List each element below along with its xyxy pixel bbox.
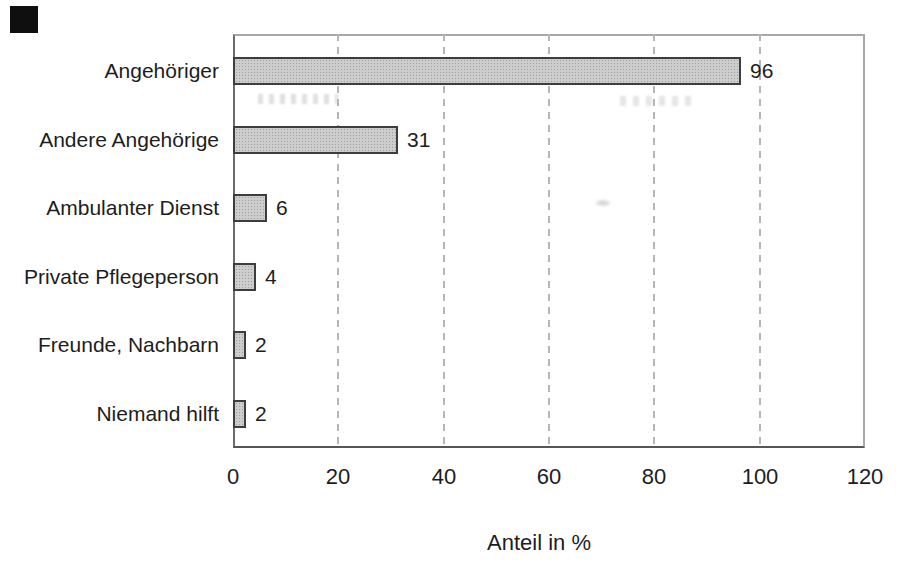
bar-value-label: 4 (265, 263, 277, 291)
bar-value-label: 31 (407, 126, 430, 154)
x-tick-label: 0 (188, 463, 278, 491)
category-label: Freunde, Nachbarn (0, 330, 226, 360)
scan-artifact-black-square (10, 6, 38, 33)
category-label: Ambulanter Dienst (0, 193, 226, 223)
bar-value-label: 2 (255, 331, 267, 359)
x-tick-label: 40 (399, 463, 489, 491)
x-tick-label: 100 (715, 463, 805, 491)
bar-ambulanter-dienst (233, 194, 267, 222)
x-tick-label: 120 (820, 463, 909, 491)
bar-freunde-nachbarn (233, 331, 246, 359)
x-tick-label: 80 (609, 463, 699, 491)
bar-value-label: 96 (750, 57, 773, 85)
gridline-80 (653, 34, 655, 448)
bar-niemand-hilft (233, 400, 246, 428)
gridline-40 (443, 34, 445, 448)
x-axis-title: Anteil in % (223, 529, 855, 557)
gridline-20 (337, 34, 339, 448)
bar-private-pflegeperson (233, 263, 256, 291)
scanned-bar-chart: Angehöriger Andere Angehörige Ambulanter… (0, 0, 909, 574)
category-label: Andere Angehörige (0, 125, 226, 155)
gridline-60 (548, 34, 550, 448)
x-tick-label: 60 (504, 463, 594, 491)
x-tick-label: 20 (293, 463, 383, 491)
category-label: Angehöriger (0, 56, 226, 86)
category-label: Private Pflegeperson (0, 262, 226, 292)
bar-andere-angehoerige (233, 126, 398, 154)
bar-value-label: 2 (255, 400, 267, 428)
bar-angehoeriger (233, 57, 741, 85)
category-label: Niemand hilft (0, 399, 226, 429)
gridline-100 (759, 34, 761, 448)
bar-value-label: 6 (276, 194, 288, 222)
